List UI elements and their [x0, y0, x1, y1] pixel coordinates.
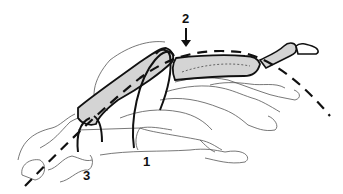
label-2: 2	[182, 12, 189, 25]
label-1: 1	[143, 155, 150, 168]
proximal-phalanx-bone	[173, 55, 260, 80]
hand-skeleton-diagram	[0, 0, 343, 194]
down-arrow-icon	[181, 28, 191, 47]
middle-phalanx-bone	[260, 43, 297, 68]
metacarpal-bone	[78, 48, 173, 125]
distal-phalanx-bone	[296, 44, 318, 54]
label-3: 3	[83, 169, 90, 182]
